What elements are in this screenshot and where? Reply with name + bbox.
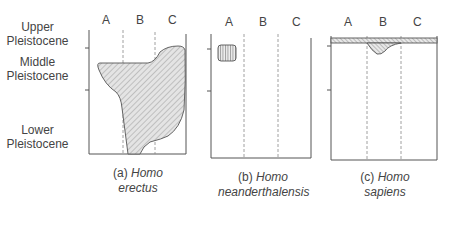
sapiens-origin-bulge [367,43,401,54]
neanderthalensis-range-shape [218,45,236,61]
panel-b-homo-neanderthalensis [207,34,311,158]
sapiens-upper-band [331,38,437,43]
panel-c-homo-sapiens [327,36,437,160]
caption-b: (b) Homo neanderthalensis [218,170,308,200]
caption-a: (a) Homo erectus [108,166,168,196]
caption-c: (c) Homo sapiens [350,170,420,200]
erectus-range-shape [98,46,186,154]
panel-a-homo-erectus [85,30,186,154]
